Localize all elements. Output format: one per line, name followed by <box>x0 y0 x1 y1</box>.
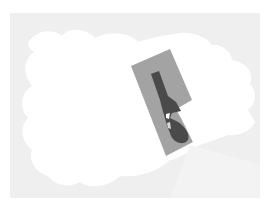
image-canvas: Grayscale photo-like image: a tilted gra… <box>0 0 271 208</box>
